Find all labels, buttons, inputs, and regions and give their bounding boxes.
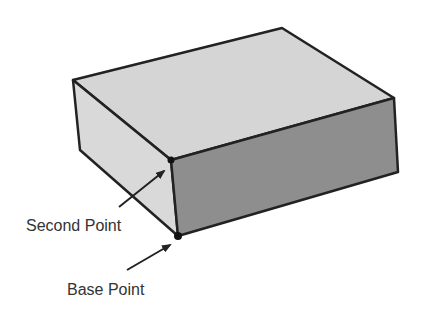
base-point-arrow — [127, 245, 170, 270]
base-point-label: Base Point — [67, 281, 145, 298]
base-point-marker — [174, 232, 182, 240]
second-point-marker — [168, 157, 175, 164]
second-point-label: Second Point — [26, 217, 122, 234]
box-diagram: Second Point Base Point — [0, 0, 423, 311]
